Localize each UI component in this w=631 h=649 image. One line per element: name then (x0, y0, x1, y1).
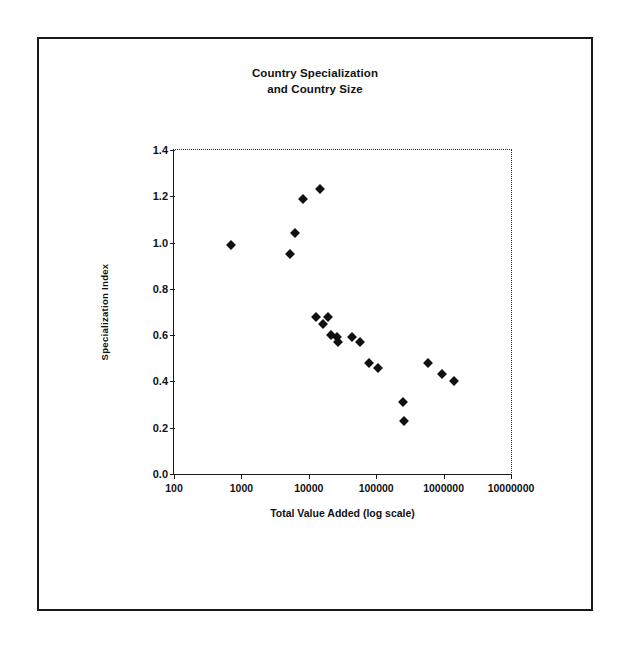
y-axis-tick-mark (170, 150, 175, 151)
scatter-point (312, 312, 322, 322)
x-axis-tick-mark (174, 474, 175, 479)
plot-area: 0.00.20.40.60.81.01.21.4 100100010000100… (173, 149, 512, 475)
scatter-point (355, 337, 365, 347)
scatter-point (437, 370, 447, 380)
chart-title: Country Specialization and Country Size (39, 65, 591, 97)
y-axis-tick-label: 0.4 (153, 375, 168, 387)
y-axis-tick-label: 0.8 (153, 283, 168, 295)
x-axis-tick-mark (309, 474, 310, 479)
y-axis-tick-label: 0.0 (153, 468, 168, 480)
y-axis-tick-mark (170, 428, 175, 429)
x-axis-tick-label: 1000000 (423, 482, 464, 494)
scatter-point (285, 249, 295, 259)
x-axis-tick-label: 10000 (294, 482, 323, 494)
scatter-point (423, 358, 433, 368)
x-axis-tick-mark (511, 474, 512, 479)
figure-frame: Country Specialization and Country Size … (37, 37, 593, 611)
scatter-point (298, 194, 308, 204)
scatter-point (290, 228, 300, 238)
y-axis-tick-mark (170, 243, 175, 244)
scatter-point (364, 358, 374, 368)
x-axis-tick-label: 100000 (359, 482, 394, 494)
x-axis-tick-label: 100 (165, 482, 183, 494)
chart-title-line-2: and Country Size (39, 81, 591, 97)
x-axis-tick-mark (241, 474, 242, 479)
scatter-point (399, 416, 409, 426)
x-axis-tick-label: 10000000 (488, 482, 535, 494)
x-axis-tick-label: 1000 (230, 482, 253, 494)
y-axis-tick-mark (170, 289, 175, 290)
y-axis-tick-mark (170, 381, 175, 382)
y-axis-tick-label: 1.2 (153, 190, 168, 202)
y-axis-tick-mark (170, 196, 175, 197)
scatter-point (226, 240, 236, 250)
x-axis-title: Total Value Added (log scale) (173, 507, 512, 519)
y-axis-tick-label: 1.4 (153, 144, 168, 156)
chart-title-line-1: Country Specialization (39, 65, 591, 81)
y-axis-tick-label: 0.6 (153, 329, 168, 341)
scatter-point (450, 376, 460, 386)
y-axis-tick-label: 1.0 (153, 237, 168, 249)
y-axis-title: Specialization Index (99, 149, 117, 475)
scatter-point (315, 184, 325, 194)
scatter-point (398, 397, 408, 407)
scatter-point (373, 363, 383, 373)
x-axis-tick-mark (444, 474, 445, 479)
x-axis-tick-mark (376, 474, 377, 479)
y-axis-tick-mark (170, 335, 175, 336)
y-axis-tick-label: 0.2 (153, 422, 168, 434)
